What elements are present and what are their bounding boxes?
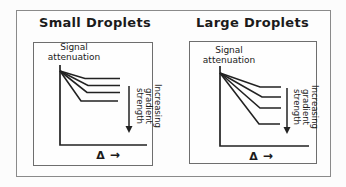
gradient-strength-label: Increasing gradient strength — [291, 74, 319, 140]
down-arrow-head — [126, 126, 133, 133]
figure: Small Droplets Signal attenuation Increa… — [0, 0, 346, 187]
x-axis-label: Δ→ — [78, 148, 138, 162]
right-arrow-icon: → — [263, 149, 273, 163]
gradient-label-line: strength — [292, 74, 301, 140]
x-axis-label: Δ→ — [231, 149, 291, 163]
delta-symbol: Δ — [96, 149, 105, 162]
gradient-label-line: Increasing — [310, 74, 319, 140]
panel-small-droplets: Small Droplets Signal attenuation Increa… — [16, 10, 174, 177]
signal-attenuation-label: Signal attenuation — [24, 43, 124, 62]
delta-symbol: Δ — [249, 150, 258, 163]
signal-attenuation-label: Signal attenuation — [179, 46, 279, 65]
gradient-strength-label: Increasing gradient strength — [134, 73, 162, 139]
right-arrow-icon: → — [110, 148, 120, 162]
gradient-label-line: gradient — [301, 74, 310, 140]
signal-label-line: attenuation — [179, 56, 279, 66]
gradient-label-line: strength — [135, 73, 144, 139]
gradient-label-line: Increasing — [153, 73, 162, 139]
gradient-label-line: gradient — [144, 73, 153, 139]
panel-large-droplets: Large Droplets Signal attenuation Increa… — [174, 10, 331, 177]
signal-label-line: attenuation — [24, 53, 124, 63]
down-arrow-head — [284, 127, 291, 134]
